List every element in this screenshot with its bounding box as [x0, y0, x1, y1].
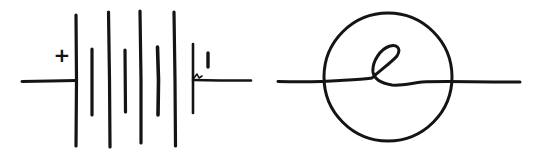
battery-right-lead — [193, 80, 251, 81]
positive-terminal-label: + — [54, 43, 71, 67]
battery-plate-long — [76, 15, 77, 146]
battery-left-lead — [22, 81, 76, 82]
battery-symbol: + — [22, 11, 251, 147]
battery-plate-long — [109, 12, 111, 147]
lamp-filament-wire — [278, 45, 520, 85]
circuit-diagram: + — [0, 0, 539, 158]
battery-plate-long — [174, 12, 176, 146]
battery-lead-blot — [194, 74, 202, 78]
battery-plate-short — [125, 50, 126, 112]
battery-plate-long — [140, 11, 141, 143]
lamp-symbol — [278, 13, 520, 141]
lamp-bulb-circle — [324, 13, 452, 141]
battery-plate-short — [158, 47, 159, 115]
